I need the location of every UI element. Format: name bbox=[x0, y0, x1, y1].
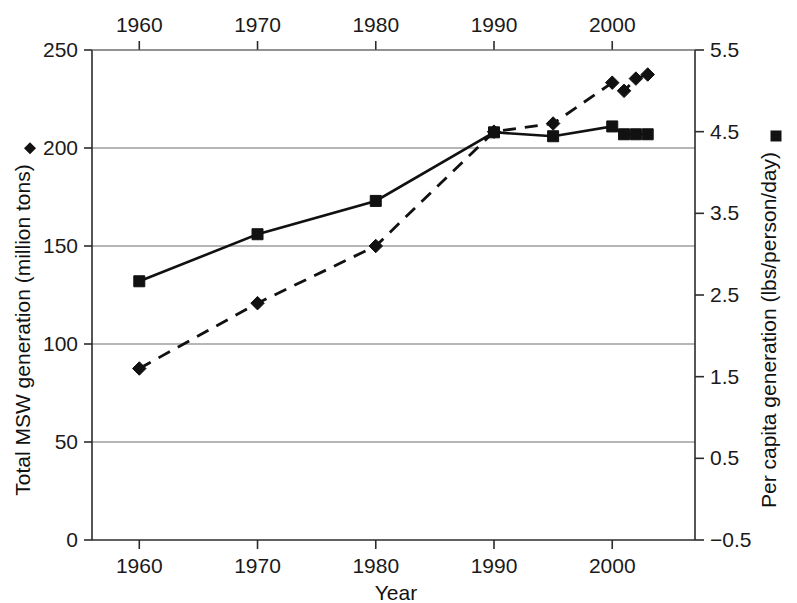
right-axis-tick-label: 5.5 bbox=[710, 38, 739, 61]
left-axis-tick-label: 0 bbox=[66, 528, 78, 551]
x-axis-bottom-tick-label: 1960 bbox=[116, 554, 163, 577]
x-axis-top-tick-label: 1990 bbox=[471, 13, 518, 36]
x-axis-title: Year bbox=[375, 581, 417, 603]
right-axis-tick-label: 2.5 bbox=[710, 283, 739, 306]
left-axis-tick-label: 150 bbox=[43, 234, 78, 257]
square-data-marker bbox=[619, 129, 630, 140]
right-axis-tick-label: 4.5 bbox=[710, 120, 739, 143]
left-axis-title: Total MSW generation (million tons) bbox=[11, 164, 34, 495]
x-axis-bottom-tick-label: 1990 bbox=[471, 554, 518, 577]
square-data-marker bbox=[607, 121, 618, 132]
x-axis-bottom-tick-label: 1980 bbox=[352, 554, 399, 577]
square-data-marker bbox=[548, 131, 559, 142]
x-axis-top-tick-label: 2000 bbox=[589, 13, 636, 36]
x-axis-top-tick-label: 1960 bbox=[116, 13, 163, 36]
chart-background bbox=[0, 0, 797, 603]
right-axis-tick-label: 1.5 bbox=[710, 365, 739, 388]
right-axis-tick-label: 3.5 bbox=[710, 201, 739, 224]
right-axis-title: Per capita generation (lbs/person/day) bbox=[757, 152, 780, 508]
left-axis-tick-label: 100 bbox=[43, 332, 78, 355]
square-data-marker bbox=[134, 276, 145, 287]
chart-figure: 050100150200250 −0.50.51.52.53.54.55.5 1… bbox=[0, 0, 797, 603]
x-axis-bottom-tick-label: 1970 bbox=[234, 554, 281, 577]
msw-generation-chart: 050100150200250 −0.50.51.52.53.54.55.5 1… bbox=[0, 0, 797, 603]
square-data-marker bbox=[489, 127, 500, 138]
square-data-marker bbox=[370, 195, 381, 206]
left-axis-tick-label: 200 bbox=[43, 136, 78, 159]
square-data-marker bbox=[642, 129, 653, 140]
square-marker-legend bbox=[771, 130, 782, 141]
right-axis-tick-label: 0.5 bbox=[710, 446, 739, 469]
x-axis-top-tick-label: 1980 bbox=[352, 13, 399, 36]
right-axis-tick-label: −0.5 bbox=[710, 528, 751, 551]
x-axis-bottom-tick-label: 2000 bbox=[589, 554, 636, 577]
left-axis-tick-label: 50 bbox=[55, 430, 78, 453]
square-data-marker bbox=[630, 129, 641, 140]
x-axis-top-tick-label: 1970 bbox=[234, 13, 281, 36]
left-axis-tick-label: 250 bbox=[43, 38, 78, 61]
square-data-marker bbox=[252, 229, 263, 240]
